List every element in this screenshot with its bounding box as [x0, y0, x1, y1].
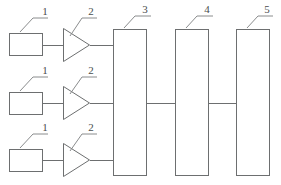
channel-middle: 1 2 [10, 64, 114, 120]
amplifier-triangle-middle [64, 87, 90, 120]
unit-box-5 [237, 30, 270, 176]
amplifier-triangle-bottom [64, 144, 90, 177]
unit-box-3 [114, 30, 147, 176]
sensor-box-middle [10, 93, 43, 115]
leader-amp-top [70, 18, 97, 36]
label-unit-3: 3 [142, 3, 148, 15]
processing-units: 3 4 5 [114, 3, 274, 176]
leader-amp-bottom [70, 134, 97, 151]
leader-amp-middle [70, 77, 97, 94]
label-unit-4: 4 [204, 3, 210, 15]
amplifier-triangle-top [64, 29, 90, 62]
leader-sensor-middle [20, 77, 48, 91]
channel-top: 1 2 [10, 5, 114, 62]
leader-sensor-bottom [20, 134, 48, 148]
block-diagram: 1 2 1 2 1 2 [0, 0, 281, 185]
leader-unit-4 [186, 16, 213, 28]
unit-box-4 [176, 30, 209, 176]
label-amp-middle: 2 [88, 64, 94, 76]
label-amp-bottom: 2 [88, 121, 94, 133]
channel-bottom: 1 2 [10, 121, 114, 177]
label-unit-5: 5 [264, 3, 270, 15]
diagram-canvas: 1 2 1 2 1 2 [0, 0, 281, 185]
label-amp-top: 2 [88, 5, 94, 17]
leader-unit-3 [124, 16, 151, 28]
label-sensor-bottom: 1 [42, 121, 48, 133]
leader-unit-5 [247, 16, 273, 28]
leader-sensor-top [20, 18, 48, 32]
label-sensor-middle: 1 [42, 64, 48, 76]
label-sensor-top: 1 [42, 5, 48, 17]
sensor-box-top [10, 34, 43, 56]
sensor-box-bottom [10, 150, 43, 172]
